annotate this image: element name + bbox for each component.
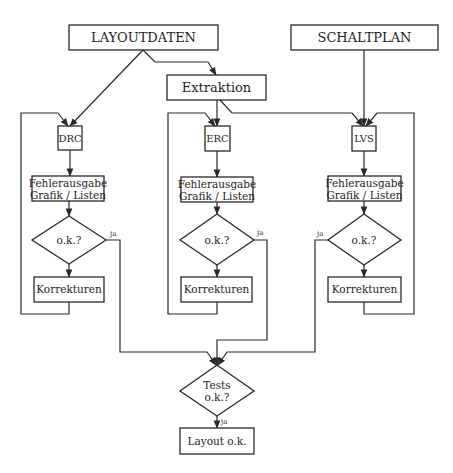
arrow-layout-to-drc	[70, 50, 143, 126]
lvs-label: LVS	[354, 133, 374, 144]
lvs-output-line2: Grafik / Listen	[326, 189, 402, 201]
erc-yes-label: ja	[256, 229, 263, 237]
drc-fix-label: Korrekturen	[36, 283, 102, 295]
layoutdaten-label: LAYOUTDATEN	[91, 30, 196, 45]
lvs-yes-label: ja	[316, 230, 323, 238]
tests-label-line2: o.k.?	[205, 391, 230, 403]
erc-column: ERC Fehlerausgabe Grafik / Listen o.k.? …	[168, 113, 267, 365]
lvs-fix-label: Korrekturen	[332, 283, 398, 295]
erc-output-line2: Grafik / Listen	[179, 190, 255, 202]
erc-label: ERC	[206, 133, 229, 144]
verification-flowchart: LAYOUTDATEN SCHALTPLAN Extraktion DRC Fe…	[0, 0, 453, 473]
schaltplan-label: SCHALTPLAN	[318, 30, 412, 45]
erc-decision-label: o.k.?	[205, 234, 230, 246]
drc-output-line2: Grafik / Listen	[30, 189, 106, 201]
drc-yes-label: ja	[109, 230, 116, 238]
arrow-layout-to-extraktion	[143, 50, 216, 75]
drc-label: DRC	[58, 133, 82, 144]
final-stage: Tests o.k.? ja Layout o.k.	[180, 365, 254, 454]
drc-decision-label: o.k.?	[57, 234, 82, 246]
layout-ok-label: Layout o.k.	[188, 435, 247, 447]
drc-output-line1: Fehlerausgabe	[29, 177, 108, 189]
tests-label-line1: Tests	[203, 379, 230, 391]
extraktion-node: Extraktion	[167, 75, 266, 100]
extraktion-label: Extraktion	[182, 80, 252, 95]
layoutdaten-node: LAYOUTDATEN	[69, 25, 218, 50]
lvs-decision-label: o.k.?	[352, 234, 377, 246]
arrow-extraktion-to-lvs	[220, 100, 363, 126]
schaltplan-node: SCHALTPLAN	[291, 25, 438, 50]
tests-yes-label: ja	[220, 418, 227, 426]
erc-output-line1: Fehlerausgabe	[178, 178, 257, 190]
lvs-output-line1: Fehlerausgabe	[325, 177, 404, 189]
erc-fix-label: Korrekturen	[184, 283, 250, 295]
